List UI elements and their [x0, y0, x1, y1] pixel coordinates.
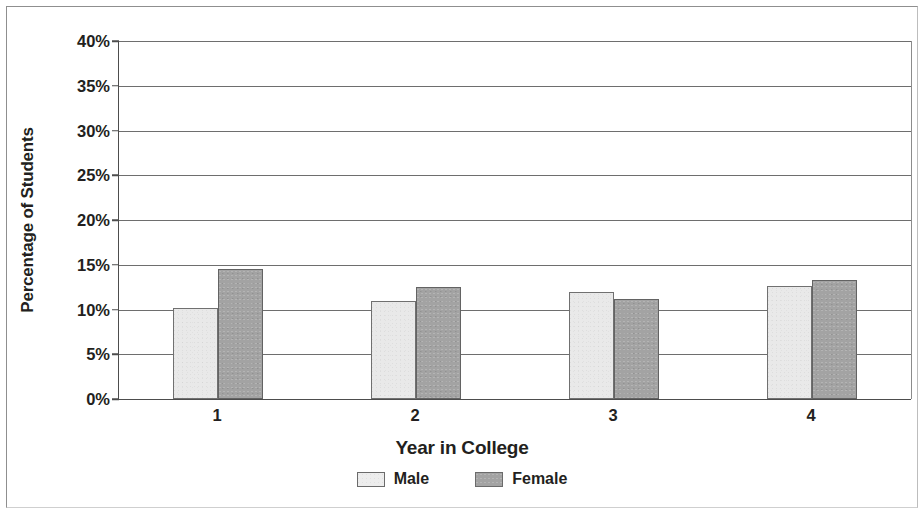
- y-tick-label-40: 40%: [77, 32, 110, 51]
- y-tick-mark-30: [112, 130, 119, 132]
- y-tick-mark-20: [112, 219, 119, 221]
- legend-label-male: Male: [394, 470, 430, 488]
- legend-item-female: Female: [475, 470, 567, 488]
- y-tick-label-25: 25%: [77, 166, 110, 185]
- y-tick-mark-35: [112, 85, 119, 87]
- legend-label-female: Female: [512, 470, 567, 488]
- y-axis-title: Percentage of Students: [16, 41, 40, 399]
- y-tick-mark-0: [112, 398, 119, 400]
- y-tick-mark-5: [112, 354, 119, 356]
- bar-chart-figure: Percentage of Students 40%35%30%25%20%15…: [0, 0, 924, 518]
- bar-female-year-1: [218, 269, 263, 399]
- bar-female-year-2: [416, 287, 461, 399]
- legend-swatch-female-icon: [475, 472, 503, 487]
- y-tick-mark-15: [112, 264, 119, 266]
- y-tick-label-10: 10%: [77, 300, 110, 319]
- x-tick-label-4: 4: [806, 406, 815, 425]
- bar-male-year-4: [767, 286, 812, 399]
- y-tick-label-35: 35%: [77, 76, 110, 95]
- y-tick-label-20: 20%: [77, 211, 110, 230]
- x-axis-title: Year in College: [0, 437, 924, 459]
- y-tick-mark-40: [112, 40, 119, 42]
- plot-area: 40%35%30%25%20%15%10%5%0%: [118, 41, 911, 400]
- y-axis-title-text: Percentage of Students: [18, 127, 38, 312]
- y-tick-mark-10: [112, 309, 119, 311]
- bar-male-year-2: [371, 301, 416, 399]
- gridline-0: [119, 399, 911, 400]
- bars-layer: [119, 41, 911, 399]
- legend-item-male: Male: [357, 470, 430, 488]
- plot-right-border: [911, 41, 912, 399]
- y-tick-label-0: 0%: [86, 390, 110, 409]
- x-tick-label-1: 1: [212, 406, 221, 425]
- bar-female-year-3: [614, 299, 659, 399]
- y-tick-label-30: 30%: [77, 121, 110, 140]
- bar-female-year-4: [812, 280, 857, 399]
- y-tick-mark-25: [112, 175, 119, 177]
- bar-male-year-3: [569, 292, 614, 399]
- x-tick-label-3: 3: [608, 406, 617, 425]
- y-tick-label-5: 5%: [86, 345, 110, 364]
- x-tick-label-2: 2: [410, 406, 419, 425]
- legend-swatch-male-icon: [357, 472, 385, 487]
- bar-male-year-1: [173, 308, 218, 399]
- chart-legend: Male Female: [0, 470, 924, 488]
- y-tick-label-15: 15%: [77, 255, 110, 274]
